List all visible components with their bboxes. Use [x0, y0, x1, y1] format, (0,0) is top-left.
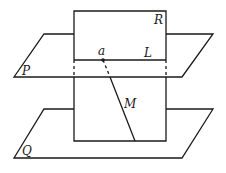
label-l: L — [143, 46, 152, 60]
label-m: M — [123, 97, 137, 111]
point-a — [101, 58, 105, 62]
plane-r — [74, 11, 166, 141]
plane-q — [14, 109, 213, 158]
plane-p — [14, 34, 213, 77]
label-p: P — [21, 64, 31, 78]
label-q: Q — [22, 144, 32, 158]
label-a: a — [98, 44, 105, 58]
geometry-diagram: R P Q L M a — [0, 0, 226, 173]
label-r: R — [153, 13, 163, 27]
